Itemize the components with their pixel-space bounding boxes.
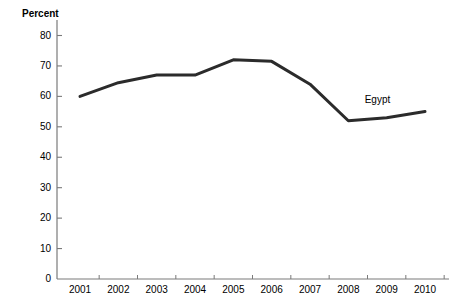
x-tick-label: 2009 (367, 284, 407, 295)
x-tick-label: 2005 (213, 284, 253, 295)
x-tick-label: 2003 (137, 284, 177, 295)
y-tick-label: 40 (25, 151, 51, 162)
y-tick-label: 10 (25, 243, 51, 254)
y-axis-ticks (57, 36, 62, 249)
x-tick-label: 2010 (405, 284, 445, 295)
x-tick-label: 2008 (328, 284, 368, 295)
series-label-egypt: Egypt (365, 94, 391, 105)
x-tick-label: 2002 (98, 284, 138, 295)
y-tick-label: 80 (25, 30, 51, 41)
y-tick-label: 60 (25, 90, 51, 101)
y-tick-label: 0 (25, 273, 51, 284)
line-chart: Percent 01020304050607080 20012002200320… (0, 0, 459, 307)
x-tick-label: 2007 (290, 284, 330, 295)
y-tick-label: 70 (25, 60, 51, 71)
y-tick-label: 50 (25, 121, 51, 132)
y-axis-group (57, 20, 62, 279)
data-line-egypt (80, 60, 425, 121)
x-tick-label: 2006 (252, 284, 292, 295)
x-tick-label: 2001 (60, 284, 100, 295)
y-tick-label: 20 (25, 212, 51, 223)
x-axis-group (57, 275, 449, 279)
x-tick-label: 2004 (175, 284, 215, 295)
data-series-group (80, 60, 425, 121)
chart-plot-area (0, 0, 459, 307)
y-tick-label: 30 (25, 182, 51, 193)
